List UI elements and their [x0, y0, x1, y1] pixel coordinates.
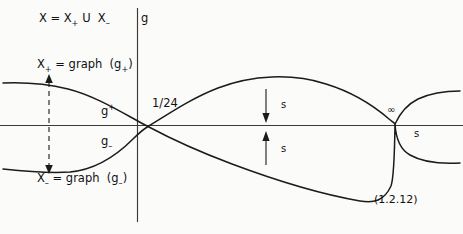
- figure-canvas: X = X+ U X– X+ = graph (g+) X– = graph (…: [0, 0, 463, 234]
- svg-text:X– = graph (g–): X– = graph (g–): [4, 171, 153, 188]
- g-plus-base: g: [101, 104, 108, 118]
- set-decomposition-minus-sub: –: [106, 18, 110, 28]
- curve-x-minus: [3, 77, 460, 173]
- equation-number: (1.2.12): [374, 193, 418, 206]
- s-down-arrow-head-icon: [262, 113, 269, 123]
- graph-plus-x: X: [37, 57, 45, 71]
- s-down-arrow: [262, 89, 269, 123]
- right-crossing-infinity-label: ∞: [387, 104, 395, 115]
- s-up-arrow: [262, 131, 269, 165]
- svg-text:g+: g+: [68, 99, 141, 118]
- svg-text:X = X+ U X–: X = X+ U X–: [6, 11, 135, 29]
- s-label-above-axis: s: [281, 99, 286, 110]
- graph-plus-rest: = graph (g: [52, 57, 122, 71]
- graph-minus-close: ): [123, 171, 128, 185]
- g-minus-region-label: g–: [68, 134, 138, 152]
- double-dashed-arrow: [45, 74, 53, 174]
- left-crossing-value-label: 1/24: [152, 96, 178, 110]
- svg-text:g–: g–: [68, 134, 138, 152]
- graph-minus-x: X: [37, 171, 45, 185]
- g-minus-subscript: –: [108, 141, 112, 151]
- set-decomposition-text: X = X: [39, 11, 72, 25]
- svg-text:X+ = graph (g+): X+ = graph (g+): [4, 57, 158, 74]
- graph-minus-label: X– = graph (g–): [4, 171, 153, 188]
- graph-minus-rest: = graph (g: [49, 171, 119, 185]
- graph-plus-close: ): [128, 57, 133, 71]
- g-plus-superscript: +: [108, 102, 115, 112]
- graph-plus-label: X+ = graph (g+): [4, 57, 158, 74]
- phase-portrait-diagram: X = X+ U X– X+ = graph (g+) X– = graph (…: [0, 0, 463, 234]
- dashed-arrow-head-up-icon: [45, 74, 53, 83]
- axis-label-g: g: [141, 11, 148, 25]
- s-up-arrow-head-icon: [262, 131, 269, 141]
- s-label-below-axis: s: [281, 143, 286, 154]
- set-decomposition-plus-sub: +: [72, 18, 79, 28]
- set-decomposition-label: X = X+ U X–: [6, 11, 135, 29]
- set-decomposition-union-text: U X: [78, 11, 105, 25]
- graph-plus-x-sub: +: [45, 64, 52, 74]
- g-minus-base: g: [101, 134, 108, 148]
- s-label-right: s: [414, 128, 419, 139]
- g-plus-region-label: g+: [68, 99, 141, 118]
- graph-plus-g-sub: +: [121, 64, 128, 74]
